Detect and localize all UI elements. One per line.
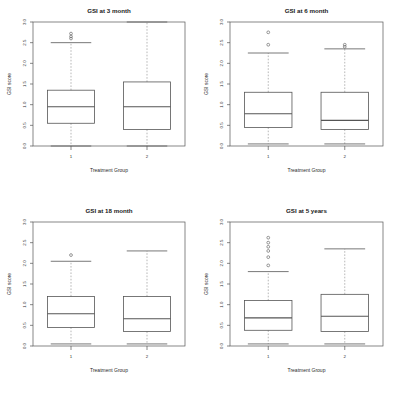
plot-frame xyxy=(33,22,185,146)
x-tick-label: 1 xyxy=(267,154,270,159)
y-tick-label: 0.0 xyxy=(22,142,27,149)
y-tick-label: 2.0 xyxy=(219,260,224,267)
y-tick-label: 3.0 xyxy=(219,218,224,225)
y-tick-label: 0.0 xyxy=(219,142,224,149)
panel-bottom-left: GSI at 18 month0.00.51.01.52.02.53.0GSI … xyxy=(0,200,197,400)
y-tick-label: 2.5 xyxy=(22,39,27,46)
boxplot-svg-1: GSI at 6 month0.00.51.01.52.02.53.0GSI s… xyxy=(197,0,395,200)
outlier-point xyxy=(267,241,270,244)
x-tick-label: 2 xyxy=(344,154,347,159)
y-tick-label: 0.5 xyxy=(22,322,27,329)
x-axis-label: Treatment Group xyxy=(90,167,128,173)
y-tick-label: 1.5 xyxy=(219,280,224,287)
y-tick-label: 2.5 xyxy=(219,39,224,46)
outlier-point xyxy=(267,236,270,239)
y-tick-label: 2.0 xyxy=(22,260,27,267)
outlier-point xyxy=(267,31,270,34)
box-group xyxy=(47,254,94,344)
boxplot-svg-3: GSI at 5 years0.00.51.01.52.02.53.0GSI s… xyxy=(197,200,395,400)
panel-top-right: GSI at 6 month0.00.51.01.52.02.53.0GSI s… xyxy=(197,0,395,200)
x-tick-label: 1 xyxy=(267,354,270,359)
y-tick-label: 2.0 xyxy=(22,60,27,67)
outlier-point xyxy=(70,254,73,257)
y-tick-label: 0.5 xyxy=(22,122,27,129)
y-tick-label: 3.0 xyxy=(22,18,27,25)
panel-title: GSI at 5 years xyxy=(286,207,327,214)
outlier-point xyxy=(70,35,73,38)
box-group xyxy=(321,249,368,344)
box-group xyxy=(245,236,292,344)
box-group xyxy=(47,32,94,146)
y-tick-label: 0.5 xyxy=(219,322,224,329)
box-iqr xyxy=(245,92,292,127)
y-tick-label: 1.0 xyxy=(219,301,224,308)
outlier-point xyxy=(267,245,270,248)
outlier-point xyxy=(343,43,346,46)
y-axis-label: GSI score xyxy=(203,73,209,95)
box-iqr xyxy=(47,296,94,327)
box-group xyxy=(321,43,368,144)
box-iqr xyxy=(123,296,170,331)
y-tick-label: 0.0 xyxy=(219,342,224,349)
panel-bottom-right: GSI at 5 years0.00.51.01.52.02.53.0GSI s… xyxy=(197,200,395,400)
box-iqr xyxy=(321,294,368,331)
outlier-point xyxy=(70,32,73,35)
y-axis-label: GSI score xyxy=(203,273,209,295)
y-tick-label: 1.5 xyxy=(22,280,27,287)
y-tick-label: 3.0 xyxy=(22,218,27,225)
y-tick-label: 1.0 xyxy=(22,301,27,308)
outlier-point xyxy=(267,43,270,46)
box-group xyxy=(123,22,170,146)
x-tick-label: 2 xyxy=(146,154,149,159)
x-tick-label: 2 xyxy=(146,354,149,359)
boxplot-svg-0: GSI at 3 month0.00.51.01.52.02.53.0GSI s… xyxy=(0,0,197,200)
y-tick-label: 0.5 xyxy=(219,122,224,129)
outlier-point xyxy=(267,250,270,253)
y-tick-label: 0.0 xyxy=(22,342,27,349)
plot-frame xyxy=(230,222,383,346)
y-tick-label: 2.5 xyxy=(22,239,27,246)
y-tick-label: 3.0 xyxy=(219,18,224,25)
outlier-point xyxy=(267,264,270,267)
y-tick-label: 1.5 xyxy=(22,80,27,87)
box-group xyxy=(245,31,292,144)
x-axis-label: Treatment Group xyxy=(288,367,326,373)
panel-title: GSI at 18 month xyxy=(85,207,132,214)
x-tick-label: 2 xyxy=(344,354,347,359)
panel-top-left: GSI at 3 month0.00.51.01.52.02.53.0GSI s… xyxy=(0,0,197,200)
outlier-point xyxy=(267,256,270,259)
y-tick-label: 1.0 xyxy=(22,101,27,108)
y-axis-label: GSI score xyxy=(6,73,12,95)
y-tick-label: 1.5 xyxy=(219,80,224,87)
x-axis-label: Treatment Group xyxy=(90,367,128,373)
boxplot-svg-2: GSI at 18 month0.00.51.01.52.02.53.0GSI … xyxy=(0,200,197,400)
y-tick-label: 2.0 xyxy=(219,60,224,67)
x-tick-label: 1 xyxy=(70,154,73,159)
panel-title: GSI at 6 month xyxy=(285,7,329,14)
box-iqr xyxy=(123,82,170,130)
x-tick-label: 1 xyxy=(70,354,73,359)
y-axis-label: GSI score xyxy=(6,273,12,295)
box-iqr xyxy=(321,92,368,129)
box-iqr xyxy=(245,301,292,331)
panel-title: GSI at 3 month xyxy=(87,7,131,14)
y-tick-label: 2.5 xyxy=(219,239,224,246)
y-tick-label: 1.0 xyxy=(219,101,224,108)
x-axis-label: Treatment Group xyxy=(288,167,326,173)
box-group xyxy=(123,251,170,344)
figure-panel-grid: GSI at 3 month0.00.51.01.52.02.53.0GSI s… xyxy=(0,0,395,400)
